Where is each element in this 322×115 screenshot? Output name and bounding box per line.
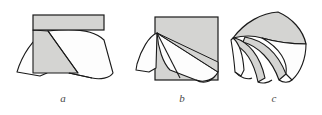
panel-a-figure bbox=[17, 15, 113, 79]
panel-c-bottom-edge-right bbox=[279, 80, 292, 82]
figure-container: a b c bbox=[0, 0, 322, 115]
panel-label-b: b bbox=[172, 92, 192, 104]
panel-b-figure bbox=[136, 17, 218, 82]
panel-b-left-lobe bbox=[136, 33, 157, 72]
panel-c-figure bbox=[231, 12, 306, 83]
panel-label-a: a bbox=[53, 92, 73, 104]
panel-label-c: c bbox=[264, 92, 284, 104]
panel-a-top-rectangle bbox=[33, 15, 104, 30]
